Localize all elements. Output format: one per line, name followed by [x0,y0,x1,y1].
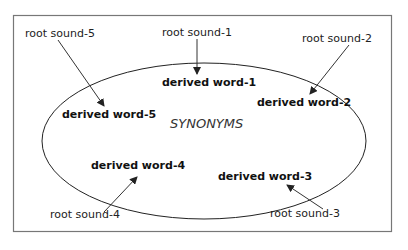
root-sound-1: root sound-1 [162,27,232,38]
root-sound-2: root sound-2 [302,33,372,44]
derived-word-3: derived word-3 [218,171,312,182]
root-sound-5: root sound-5 [25,28,95,39]
derived-word-5: derived word-5 [62,109,156,120]
derived-word-4: derived word-4 [91,160,185,171]
root-sound-3: root sound-3 [270,208,340,219]
synonyms-label: SYNONYMS [170,117,243,130]
arrow-root4-to-derived4 [104,177,137,212]
arrow-root2-to-derived2 [310,45,349,94]
derived-word-1: derived word-1 [162,77,256,88]
root-sound-4: root sound-4 [50,209,120,220]
arrow-root5-to-derived5 [58,40,104,106]
derived-word-2: derived word-2 [257,97,351,108]
